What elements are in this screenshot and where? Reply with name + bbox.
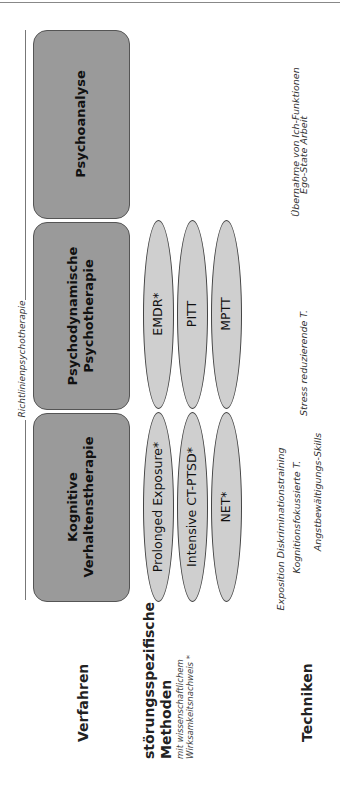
row-label-techniken: Techniken xyxy=(299,662,317,742)
method-ellipse: PITT xyxy=(177,220,208,409)
method-label: PITT xyxy=(184,221,202,408)
verfahren-box-psychodynamisch: PsychodynamischePsychotherapie xyxy=(33,222,130,410)
method-ellipse: Prolonged Exposure* xyxy=(143,412,174,602)
method-label: Prolonged Exposure* xyxy=(150,414,168,601)
methoden-title-line2: Methoden xyxy=(158,619,175,759)
technique-label: Stress reduzierende T. xyxy=(298,298,312,428)
technique-label: Exposition Diskriminationstraining xyxy=(275,439,289,619)
method-ellipse: NET* xyxy=(211,412,242,602)
technique-label: Kognitionsfokussierte T. xyxy=(291,447,305,587)
richtlinien-label: Richtlinienpsychotherapie xyxy=(17,299,31,419)
method-label: Intensive CT-PTSD* xyxy=(184,414,202,601)
method-label: EMDR* xyxy=(150,221,168,408)
page-header-rule xyxy=(0,2,340,3)
verfahren-label: KognitiveVerhaltenstherapie xyxy=(65,414,99,601)
methoden-title-line1: störungsspezifische xyxy=(141,619,158,759)
row-label-verfahren: Verfahren xyxy=(75,662,93,742)
methoden-subtitle-line2: Wirksamkeitsnachweis * xyxy=(185,619,195,759)
methoden-subtitle-line1: mit wissenschaftlichem xyxy=(175,619,185,759)
technique-label: Ego-State Arbeit xyxy=(298,95,312,215)
verfahren-box-psychoanalyse: Psychoanalyse xyxy=(33,30,130,219)
verfahren-box-kvt: KognitiveVerhaltenstherapie xyxy=(33,413,130,602)
method-label: NET* xyxy=(218,414,236,601)
row-label-methoden: störungsspezifische Methoden mit wissens… xyxy=(141,619,199,759)
technique-label: Angstbewältigungs-Skills xyxy=(312,427,326,557)
method-label: MPTT xyxy=(218,221,236,408)
verfahren-label: PsychodynamischePsychotherapie xyxy=(65,223,99,410)
verfahren-label: Psychoanalyse xyxy=(73,31,91,218)
method-ellipse: EMDR* xyxy=(143,220,174,409)
method-ellipse: Intensive CT-PTSD* xyxy=(177,412,208,602)
method-ellipse: MPTT xyxy=(211,220,242,409)
